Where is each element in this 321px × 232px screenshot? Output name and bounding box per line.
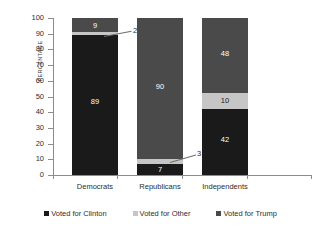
y-axis-tick-mark bbox=[48, 112, 53, 113]
callout-label-republicans-other: 3 bbox=[197, 149, 201, 158]
y-axis-tick-label: 70 bbox=[0, 60, 44, 69]
y-axis-tick-mark bbox=[48, 97, 53, 98]
x-axis-tick-3 bbox=[247, 175, 248, 179]
legend-label-other: Voted for Other bbox=[140, 209, 191, 218]
bar-segment-democrats-clinton: 89 bbox=[72, 35, 118, 175]
y-axis-tick-mark bbox=[48, 34, 53, 35]
y-axis-tick-label: 30 bbox=[0, 123, 44, 132]
legend-item-clinton: Voted for Clinton bbox=[44, 209, 106, 218]
y-axis-tick-mark bbox=[48, 49, 53, 50]
legend-item-trump: Voted for Trump bbox=[216, 209, 276, 218]
y-axis-tick-label: 80 bbox=[0, 44, 44, 53]
y-axis-tick-label: 10 bbox=[0, 154, 44, 163]
bar-value-independents-other: 10 bbox=[202, 97, 248, 105]
chart-legend: Voted for Clinton Voted for Other Voted … bbox=[0, 209, 321, 218]
legend-swatch-clinton bbox=[44, 211, 49, 216]
bar-value-democrats-clinton: 89 bbox=[72, 98, 118, 106]
y-axis-tick-label: 40 bbox=[0, 107, 44, 116]
x-axis-tick-4 bbox=[311, 175, 312, 179]
y-axis-tick-mark bbox=[48, 65, 53, 66]
bar-value-republicans-trump: 90 bbox=[137, 83, 183, 91]
legend-label-trump: Voted for Trump bbox=[223, 209, 276, 218]
bar-segment-independents-other: 10 bbox=[202, 93, 248, 109]
y-axis-tick-label: 20 bbox=[0, 139, 44, 148]
bar-value-independents-clinton: 42 bbox=[202, 136, 248, 144]
x-axis-label-independents: Independents bbox=[182, 182, 268, 191]
bar-independents: 48 10 42 bbox=[202, 18, 248, 175]
bar-value-independents-trump: 48 bbox=[202, 50, 248, 58]
y-axis-tick-label: 0 bbox=[0, 170, 44, 179]
bar-republicans: 90 7 bbox=[137, 18, 183, 175]
y-axis-line bbox=[53, 18, 54, 176]
stacked-bar-chart: PERCENTAGE 1009080706050403020100 9 89 2… bbox=[0, 0, 321, 232]
x-axis-tick-0 bbox=[53, 175, 54, 179]
bar-value-democrats-trump: 9 bbox=[72, 22, 118, 30]
legend-label-clinton: Voted for Clinton bbox=[51, 209, 106, 218]
legend-swatch-trump bbox=[216, 211, 221, 216]
y-axis-tick-mark bbox=[48, 128, 53, 129]
y-axis-tick-label: 100 bbox=[0, 13, 44, 22]
bar-segment-independents-trump: 48 bbox=[202, 18, 248, 93]
bar-segment-independents-clinton: 42 bbox=[202, 109, 248, 175]
y-axis-tick-mark bbox=[48, 81, 53, 82]
bar-segment-democrats-trump: 9 bbox=[72, 18, 118, 32]
y-axis-tick-label: 90 bbox=[0, 29, 44, 38]
x-axis-tick-1 bbox=[117, 175, 118, 179]
x-axis-tick-2 bbox=[182, 175, 183, 179]
legend-swatch-other bbox=[133, 211, 138, 216]
y-axis-tick-label: 60 bbox=[0, 76, 44, 85]
legend-item-other: Voted for Other bbox=[133, 209, 191, 218]
y-axis-tick-mark bbox=[48, 159, 53, 160]
y-axis-tick-mark bbox=[48, 144, 53, 145]
bar-segment-republicans-clinton: 7 bbox=[137, 164, 183, 175]
y-axis-tick-label: 50 bbox=[0, 92, 44, 101]
y-axis-tick-mark bbox=[48, 18, 53, 19]
bar-democrats: 9 89 bbox=[72, 18, 118, 175]
bar-segment-republicans-trump: 90 bbox=[137, 18, 183, 159]
bar-value-republicans-clinton: 7 bbox=[137, 166, 183, 174]
